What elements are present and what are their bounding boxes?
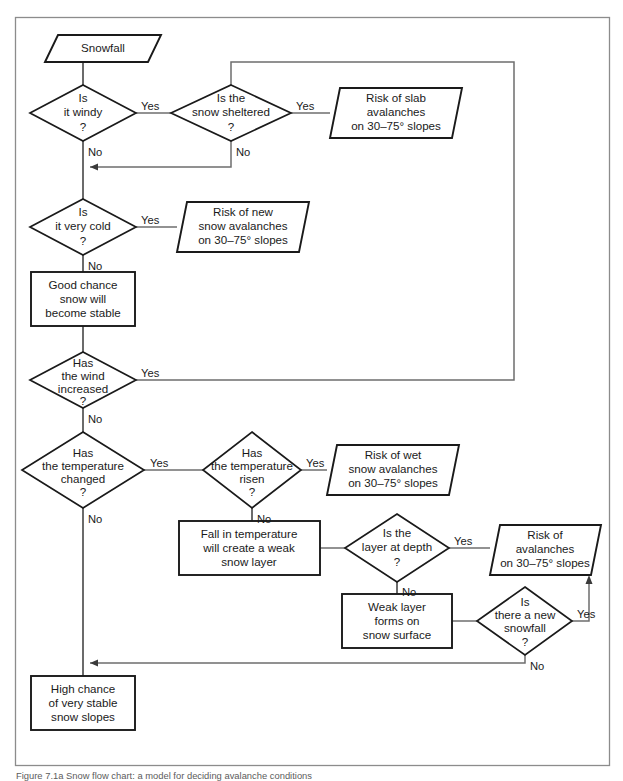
node-risk-avalanches[interactable]: Risk of avalanches on 30–75° slopes — [490, 525, 601, 575]
node-risk-wet-line-0: Risk of wet — [365, 448, 422, 461]
edge-label-temp-risen-no: No — [257, 513, 271, 525]
node-temp-risen-line-3: ? — [249, 485, 256, 498]
node-risk-aval-line-0: Risk of — [527, 528, 563, 541]
node-new-snowfall-line-0: Is — [520, 595, 529, 608]
node-good-chance-line-1: snow will — [60, 292, 106, 305]
node-is-snow-sheltered-line-2: ? — [228, 120, 235, 133]
node-temp-changed-line-0: Has — [73, 446, 94, 459]
node-risk-new-snow-line-1: snow avalanches — [199, 219, 288, 232]
node-snowfall-line-0: Snowfall — [81, 41, 125, 54]
node-temp-risen-line-2: risen — [239, 472, 264, 485]
node-good-chance-stable[interactable]: Good chance snow will become stable — [31, 272, 135, 326]
node-temp-changed-line-1: the temperature — [42, 459, 124, 472]
node-is-snow-sheltered-line-1: snow sheltered — [192, 105, 270, 118]
node-risk-new-snow-avalanches[interactable]: Risk of new snow avalanches on 30–75° sl… — [177, 202, 309, 252]
figure-container: Snowfall Is it windy ? Is the snow shelt… — [0, 0, 623, 781]
node-layer-depth-line-1: layer at depth — [362, 540, 432, 553]
node-layer-depth-line-2: ? — [394, 555, 401, 568]
edge-label-sheltered-yes: Yes — [296, 100, 315, 112]
node-new-snowfall-line-2: snowfall — [504, 621, 546, 634]
node-temp-changed-line-3: ? — [80, 485, 87, 498]
node-risk-wet-line-2: on 30–75° slopes — [348, 476, 438, 489]
node-is-it-very-cold-line-1: it very cold — [55, 219, 110, 232]
node-is-it-very-cold-line-0: Is — [78, 205, 87, 218]
node-is-snow-sheltered-line-0: Is the — [217, 91, 245, 104]
node-high-chance-line-0: High chance — [51, 682, 115, 695]
node-weak-layer-line-0: Weak layer — [368, 600, 426, 613]
node-wind-increased-line-3: ? — [80, 394, 87, 407]
edge-label-sheltered-no: No — [236, 146, 250, 158]
node-weak-layer-line-1: forms on — [374, 614, 419, 627]
node-new-snowfall-line-1: there a new — [495, 608, 556, 621]
node-high-chance-line-2: snow slopes — [51, 710, 115, 723]
edge-label-cold-no: No — [88, 260, 102, 272]
node-risk-aval-line-1: avalanches — [516, 542, 575, 555]
figure-caption: Figure 7.1a Snow flow chart: a model for… — [16, 770, 616, 781]
node-temp-risen-line-1: the temperature — [211, 459, 293, 472]
node-is-it-windy-line-2: ? — [80, 120, 87, 133]
node-risk-wet-line-1: snow avalanches — [349, 462, 438, 475]
edge-label-temp-changed-yes: Yes — [150, 457, 169, 469]
node-is-it-windy-line-0: Is — [78, 91, 87, 104]
node-risk-new-snow-line-0: Risk of new — [213, 205, 274, 218]
node-wind-increased-line-0: Has — [73, 356, 94, 369]
node-good-chance-line-2: become stable — [45, 306, 120, 319]
edge-label-windy-no: No — [88, 146, 102, 158]
edge-label-wind-increased-yes: Yes — [141, 367, 160, 379]
node-layer-depth-line-0: Is the — [383, 526, 411, 539]
node-is-it-windy-line-1: it windy — [64, 105, 103, 118]
edge-label-temp-changed-no: No — [88, 513, 102, 525]
node-risk-aval-line-2: on 30–75° slopes — [500, 556, 590, 569]
node-risk-slab-avalanches[interactable]: Risk of slab avalanches on 30–75° slopes — [330, 88, 462, 138]
node-fall-temp-line-2: snow layer — [221, 555, 277, 568]
node-temp-risen-line-0: Has — [242, 446, 263, 459]
node-risk-slab-line-1: avalanches — [367, 105, 426, 118]
node-weak-layer-forms[interactable]: Weak layer forms on snow surface — [342, 594, 452, 648]
node-weak-layer-line-2: snow surface — [363, 628, 431, 641]
edge-label-wind-increased-no: No — [88, 413, 102, 425]
edge-label-temp-risen-yes: Yes — [306, 457, 325, 469]
node-risk-slab-line-0: Risk of slab — [366, 91, 426, 104]
node-fall-temp-line-0: Fall in temperature — [201, 527, 298, 540]
node-wind-increased-line-1: the wind — [61, 369, 104, 382]
node-fall-in-temperature[interactable]: Fall in temperature will create a weak s… — [179, 521, 320, 575]
node-high-chance-line-1: of very stable — [49, 696, 118, 709]
node-new-snowfall-line-3: ? — [522, 635, 529, 648]
edge-label-layer-depth-yes: Yes — [454, 535, 473, 547]
node-fall-temp-line-1: will create a weak — [202, 541, 295, 554]
edge-label-windy-yes: Yes — [141, 100, 160, 112]
node-risk-slab-line-2: on 30–75° slopes — [351, 119, 441, 132]
node-high-chance-stable[interactable]: High chance of very stable snow slopes — [31, 676, 135, 730]
node-risk-new-snow-line-2: on 30–75° slopes — [198, 233, 288, 246]
flowchart-canvas: Snowfall Is it windy ? Is the snow shelt… — [0, 0, 623, 781]
node-is-it-very-cold-line-2: ? — [80, 234, 87, 247]
node-snowfall[interactable]: Snowfall — [45, 35, 161, 62]
edge-label-cold-yes: Yes — [141, 214, 160, 226]
edge-label-new-snowfall-yes: Yes — [577, 608, 596, 620]
node-good-chance-line-0: Good chance — [49, 278, 118, 291]
edge-label-new-snowfall-no: No — [530, 660, 544, 672]
node-risk-wet-snow-avalanches[interactable]: Risk of wet snow avalanches on 30–75° sl… — [327, 445, 459, 495]
node-temp-changed-line-2: changed — [61, 472, 105, 485]
edge-label-layer-depth-no: No — [402, 586, 416, 598]
